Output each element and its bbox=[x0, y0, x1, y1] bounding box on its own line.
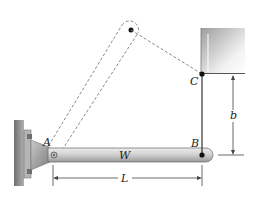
label-c: C bbox=[190, 75, 199, 88]
wall-mount bbox=[14, 120, 50, 186]
label-b-dimension: b bbox=[230, 109, 237, 122]
pin-b bbox=[199, 152, 204, 157]
diagram-canvas: A B C W L b bbox=[0, 0, 255, 197]
label-a: A bbox=[42, 136, 51, 149]
pin-c bbox=[199, 71, 204, 76]
dashed-cable bbox=[131, 30, 202, 74]
ceiling-support-block bbox=[201, 28, 245, 74]
beam bbox=[48, 148, 213, 162]
dashed-beam-rotated-outline bbox=[46, 21, 139, 150]
bolt-icon bbox=[27, 134, 32, 139]
label-l: L bbox=[120, 172, 128, 185]
pivot-pin-a-center bbox=[53, 154, 55, 156]
label-w: W bbox=[119, 149, 132, 162]
label-b: B bbox=[190, 137, 199, 150]
